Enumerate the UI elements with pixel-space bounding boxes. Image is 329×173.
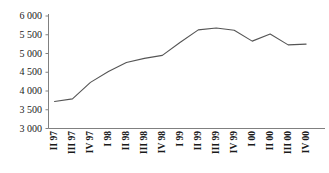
x-axis-tick-label: I 98 [104,131,114,171]
line-chart: 3 0003 5004 0004 5005 0005 5006 000 II 9… [0,0,329,173]
x-axis-tick-label: IV 99 [230,131,240,171]
x-axis-tick-label: IV 00 [302,131,312,171]
x-axis-tick-label: II 97 [50,131,60,171]
x-axis-tick-label: I 99 [176,131,186,171]
x-axis-tick-label: II 99 [194,131,204,171]
x-axis-tick-label: III 97 [68,131,78,171]
x-axis-tick-label: II 00 [266,131,276,171]
x-axis-tick-label: I 00 [248,131,258,171]
x-axis-labels: II 97III 97IV 97I 98II 98III 98IV 98I 99… [0,0,329,173]
x-axis-tick-label: III 99 [212,131,222,171]
x-axis-tick-label: IV 98 [158,131,168,171]
x-axis-tick-label: II 98 [122,131,132,171]
x-axis-tick-label: IV 97 [86,131,96,171]
x-axis-tick-label: III 98 [140,131,150,171]
x-axis-tick-label: III 00 [284,131,294,171]
